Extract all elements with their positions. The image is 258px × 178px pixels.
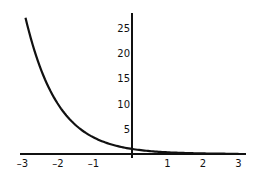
y-tick-labels: 510152025 (117, 23, 130, 135)
y-tick-label: 10 (117, 99, 130, 110)
y-tick-label: 5 (124, 124, 130, 135)
x-tick-label: 1 (164, 158, 170, 169)
x-tick-label: –1 (88, 158, 99, 169)
x-tick-label: 3 (235, 158, 241, 169)
x-tick-label: 2 (200, 158, 206, 169)
x-tick-label: –2 (52, 158, 63, 169)
x-tick-labels: –3–2–1123 (17, 158, 242, 169)
x-tick-label: –3 (17, 158, 28, 169)
y-tick-label: 15 (117, 73, 130, 84)
y-tick-label: 25 (117, 23, 130, 34)
exponential-chart: –3–2–1123 510152025 (0, 0, 258, 178)
y-tick-label: 20 (117, 48, 130, 59)
